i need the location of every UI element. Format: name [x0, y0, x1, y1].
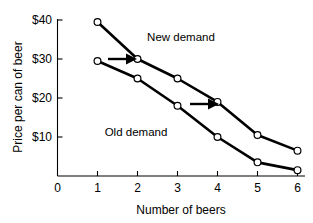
- x-tick-label-2: 2: [134, 181, 141, 195]
- x-tick-label-1: 1: [94, 181, 101, 195]
- y-tick-label-10: $10: [32, 130, 52, 144]
- x-tick-label-6: 6: [294, 181, 301, 195]
- y-tick-label-20: $20: [32, 91, 52, 105]
- y-tick-label-30: $30: [32, 52, 52, 66]
- data-point-marker: [94, 19, 101, 26]
- y-axis-title: Price per can of beer: [11, 41, 25, 152]
- x-tick-label-3: 3: [174, 181, 181, 195]
- x-tick-label-5: 5: [254, 181, 261, 195]
- data-point-marker: [294, 147, 301, 154]
- demand-curve-chart: $40 $30 $20 $10 0 1 2 3 4 5 6 Price per …: [0, 0, 313, 223]
- data-point-marker: [214, 134, 221, 141]
- data-point-marker: [94, 58, 101, 65]
- data-point-marker: [174, 75, 181, 82]
- old-demand-label: Old demand: [105, 126, 168, 138]
- new-demand-label: New demand: [147, 31, 215, 43]
- chart-canvas: $40 $30 $20 $10 0 1 2 3 4 5 6 Price per …: [0, 0, 313, 223]
- y-tick-label-40: $40: [32, 13, 52, 27]
- data-point-marker: [134, 75, 141, 82]
- x-axis-title: Number of beers: [136, 203, 225, 217]
- x-tick-label-4: 4: [214, 181, 221, 195]
- data-point-marker: [254, 159, 261, 166]
- data-point-marker: [294, 167, 301, 174]
- data-point-marker: [174, 102, 181, 109]
- data-point-marker: [254, 132, 261, 139]
- x-tick-label-0: 0: [54, 181, 61, 195]
